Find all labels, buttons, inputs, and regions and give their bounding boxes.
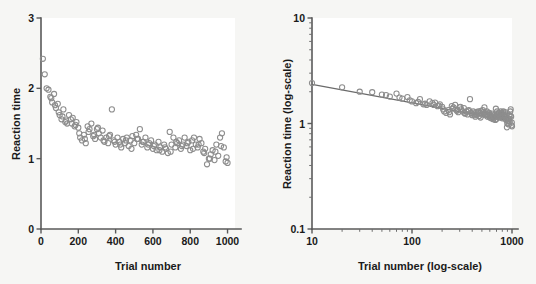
y-ticklabel-right-0: 0.1 <box>290 223 305 235</box>
y-axis-title-right: Reaction time (log-scale) <box>281 59 293 190</box>
panel-right: 1010010000.1110Trial number (log-scale)R… <box>281 12 524 272</box>
x-ticklabel-left-5: 1000 <box>216 235 240 247</box>
x-ticklabel-right-0: 10 <box>306 235 318 247</box>
x-ticklabel-left-0: 0 <box>38 235 44 247</box>
x-axis-title-right: Trial number (log-scale) <box>358 260 482 272</box>
x-ticklabel-right-1: 100 <box>403 235 421 247</box>
scatter-figure: 020040060080010000123Trial numberReactio… <box>0 0 536 284</box>
y-ticklabel-left-0: 0 <box>28 223 34 235</box>
panel-left: 020040060080010000123Trial numberReactio… <box>10 12 241 272</box>
x-ticklabel-left-4: 800 <box>181 235 199 247</box>
plot-area-right <box>312 18 512 229</box>
figure-container: 020040060080010000123Trial numberReactio… <box>0 0 536 284</box>
x-ticklabel-left-1: 200 <box>70 235 88 247</box>
y-ticklabel-left-1: 1 <box>28 153 34 165</box>
x-axis-title-left: Trial number <box>115 260 182 272</box>
y-ticklabel-left-3: 3 <box>28 12 34 24</box>
y-ticklabel-right-2: 10 <box>293 12 305 24</box>
x-ticklabel-right-2: 1000 <box>500 235 524 247</box>
y-axis-title-left: Reaction time <box>10 88 22 160</box>
y-ticklabel-right-1: 1 <box>299 118 305 130</box>
x-ticklabel-left-2: 400 <box>107 235 125 247</box>
x-ticklabel-left-3: 600 <box>144 235 162 247</box>
y-ticklabel-left-2: 2 <box>28 82 34 94</box>
